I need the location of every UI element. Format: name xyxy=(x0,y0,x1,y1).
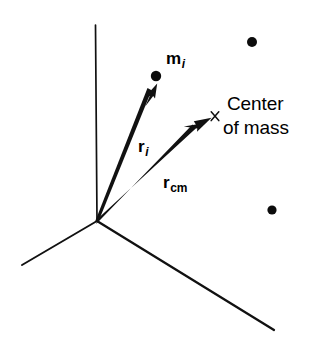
mass-i-dot xyxy=(151,71,161,81)
center-of-mass-label-line1: Center xyxy=(227,94,283,113)
vector-diagram-canvas xyxy=(0,0,317,350)
mass-i-subscript: i xyxy=(182,57,185,71)
vector-r-cm-symbol: r xyxy=(163,173,170,192)
center-of-mass-label-line2: of mass xyxy=(223,118,289,137)
vector-r-i-subscript: i xyxy=(145,145,148,159)
vector-r-i-symbol: r xyxy=(138,137,145,156)
vertical-axis xyxy=(96,25,98,221)
center-of-mass-x-marker xyxy=(211,112,219,121)
mass-upper-right-dot xyxy=(247,37,257,47)
figure-root: mi ri rcm Center of mass xyxy=(0,0,317,350)
mass-i-label: mi xyxy=(166,50,185,70)
coordinate-axes xyxy=(22,25,274,330)
vector-r-cm-subscript: cm xyxy=(170,181,187,195)
vector-r-cm-label: rcm xyxy=(163,174,187,194)
mass-i-symbol: m xyxy=(166,49,181,68)
vector-r-i-label: ri xyxy=(138,138,148,158)
r-cm-vector xyxy=(96,118,211,224)
right-axis xyxy=(97,221,274,330)
r-i-arrowhead xyxy=(145,84,157,107)
mass-lower-right-dot xyxy=(267,205,276,214)
left-axis xyxy=(22,221,97,265)
